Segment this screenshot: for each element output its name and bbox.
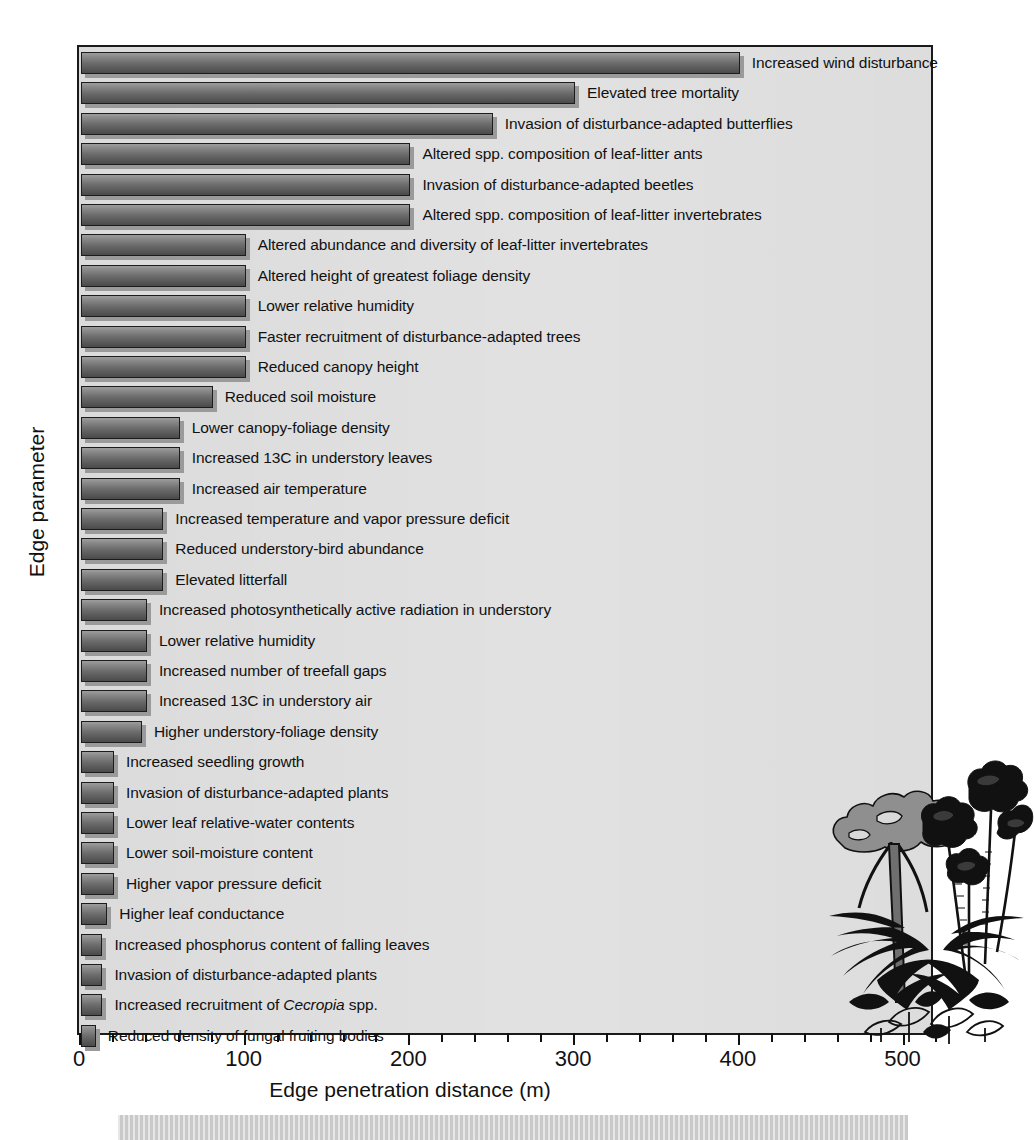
x-axis-minor-tick [705, 1033, 707, 1042]
bar [81, 82, 575, 104]
bar [81, 934, 102, 956]
bar-category-label: Higher vapor pressure deficit [126, 875, 321, 893]
bar-category-label: Reduced soil moisture [225, 388, 376, 406]
bar-category-label: Lower leaf relative-water contents [126, 814, 354, 832]
bar [81, 234, 246, 256]
x-axis-major-tick [408, 1033, 410, 1045]
bar [81, 508, 163, 530]
bar-category-label: Reduced canopy height [258, 358, 419, 376]
bar-category-label: Increased air temperature [192, 480, 367, 498]
x-axis-minor-tick [672, 1033, 674, 1042]
x-axis-tick-label: 200 [390, 1046, 427, 1072]
bar [81, 447, 180, 469]
bar-category-label: Lower soil-moisture content [126, 844, 313, 862]
x-axis-title-text: Edge penetration distance (m) [269, 1078, 550, 1102]
bar [81, 903, 107, 925]
bar-category-label: Higher understory-foliage density [154, 723, 378, 741]
x-axis-minor-tick [343, 1033, 345, 1042]
bar [81, 326, 246, 348]
x-axis-minor-tick [507, 1033, 509, 1042]
x-axis-minor-tick [474, 1033, 476, 1042]
bar-category-label: Increased phosphorus content of falling … [114, 936, 429, 954]
x-axis-minor-tick [771, 1033, 773, 1042]
x-axis-major-tick [738, 1033, 740, 1045]
bar [81, 265, 246, 287]
x-axis-minor-tick [277, 1033, 279, 1042]
bar-category-label: Increased wind disturbance [752, 54, 938, 72]
bar-category-label: Increased 13C in understory leaves [192, 449, 432, 467]
bar [81, 356, 246, 378]
x-axis-tick-label: 500 [884, 1046, 921, 1072]
x-axis-major-tick [903, 1033, 905, 1045]
bar-category-label: Altered abundance and diversity of leaf-… [258, 236, 648, 254]
bar-category-label: Lower relative humidity [258, 297, 414, 315]
bar [81, 204, 410, 226]
x-axis-minor-tick [870, 1033, 872, 1042]
x-axis-tick-label: 100 [225, 1046, 262, 1072]
bar [81, 842, 114, 864]
x-axis-ticks [77, 1033, 933, 1045]
bar-category-label: Reduced understory-bird abundance [175, 540, 423, 558]
x-axis-minor-tick [804, 1033, 806, 1042]
x-axis-tick-label: 300 [555, 1046, 592, 1072]
bar-category-label: Increased 13C in understory air [159, 692, 372, 710]
bar-category-label: Altered spp. composition of leaf-litter … [422, 145, 702, 163]
bar-category-label: Elevated tree mortality [587, 84, 739, 102]
bar [81, 812, 114, 834]
bar [81, 143, 410, 165]
bar [81, 782, 114, 804]
bar [81, 478, 180, 500]
bar [81, 751, 114, 773]
x-axis-major-tick [244, 1033, 246, 1045]
x-axis-minor-tick [112, 1033, 114, 1042]
bar [81, 660, 147, 682]
bar [81, 417, 180, 439]
bar [81, 52, 740, 74]
x-axis-minor-tick [935, 1033, 937, 1042]
bar-category-label: Increased temperature and vapor pressure… [175, 510, 509, 528]
x-axis-minor-tick [145, 1033, 147, 1042]
bar-category-label: Increased photosynthetically active radi… [159, 601, 551, 619]
bar-category-label: Increased seedling growth [126, 753, 304, 771]
bar [81, 599, 147, 621]
bar [81, 174, 410, 196]
bottom-decorative-strip [118, 1115, 908, 1140]
y-axis-title: Edge parameter [25, 402, 49, 602]
bar [81, 569, 163, 591]
bar-category-label: Invasion of disturbance-adapted plants [114, 966, 376, 984]
x-axis-minor-tick [178, 1033, 180, 1042]
plot-area: Increased wind disturbanceElevated tree … [77, 45, 933, 1035]
bar-category-label: Invasion of disturbance-adapted plants [126, 784, 388, 802]
bar [81, 994, 102, 1016]
bar [81, 630, 147, 652]
bar [81, 386, 213, 408]
bar [81, 690, 147, 712]
x-axis-minor-tick [310, 1033, 312, 1042]
x-axis-minor-tick [606, 1033, 608, 1042]
bar-category-label: Increased number of treefall gaps [159, 662, 387, 680]
bar-category-label: Invasion of disturbance-adapted butterfl… [505, 115, 793, 133]
x-axis-minor-tick [211, 1033, 213, 1042]
x-axis-minor-tick [837, 1033, 839, 1042]
bar [81, 964, 102, 986]
cecropia-rainforest-plants-illustration [819, 702, 1034, 1047]
x-axis-minor-tick [441, 1033, 443, 1042]
x-axis-title: Edge penetration distance (m) [0, 1078, 1005, 1102]
bar [81, 721, 142, 743]
bar [81, 295, 246, 317]
x-axis-tick-label: 400 [719, 1046, 756, 1072]
x-axis-minor-tick [375, 1033, 377, 1042]
x-axis-tick-labels: 0100200300400500 [0, 1046, 1005, 1076]
bar [81, 113, 493, 135]
bar-category-label: Faster recruitment of disturbance-adapte… [258, 328, 581, 346]
x-axis-minor-tick [540, 1033, 542, 1042]
x-axis-minor-tick [639, 1033, 641, 1042]
x-axis-tick-label: 0 [73, 1046, 85, 1072]
bar-category-label: Lower relative humidity [159, 632, 315, 650]
bar-category-label: Elevated litterfall [175, 571, 287, 589]
bar-category-label: Higher leaf conductance [119, 905, 284, 923]
bar [81, 538, 163, 560]
bar-category-label: Increased recruitment of Cecropia spp. [114, 996, 377, 1014]
x-axis-major-tick [79, 1033, 81, 1045]
